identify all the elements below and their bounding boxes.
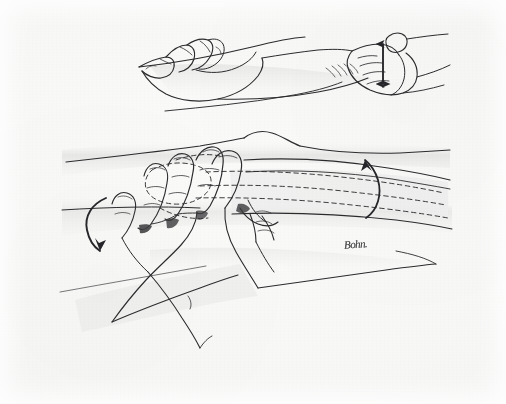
- artist-signature: Bohn.: [344, 237, 368, 251]
- paper-grain-overlay: [0, 0, 506, 404]
- figure-root: Bohn. Hand placement for knee examinatio…: [0, 0, 506, 404]
